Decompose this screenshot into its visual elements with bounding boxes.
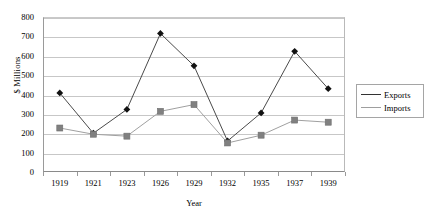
x-tick (244, 172, 245, 176)
y-axis-tick-labels: 0100200300400500600700800 (0, 17, 38, 172)
x-tick (144, 172, 145, 176)
data-point-square (57, 125, 63, 131)
x-axis-ticks (43, 172, 345, 176)
y-tick-label: 300 (0, 109, 38, 119)
x-tick-label: 1939 (308, 178, 348, 188)
data-point-square (225, 140, 231, 146)
x-tick (211, 172, 212, 176)
data-point-diamond (123, 106, 130, 113)
data-point-square (191, 102, 197, 108)
series-line (60, 105, 328, 143)
data-point-square (90, 131, 96, 137)
x-tick (110, 172, 111, 176)
x-axis-title: Year (43, 198, 345, 208)
series-layer (43, 17, 345, 172)
legend-item-imports[interactable]: Imports (359, 101, 421, 114)
y-tick-label: 700 (0, 31, 38, 41)
data-point-square (292, 117, 298, 123)
y-tick-label: 200 (0, 128, 38, 138)
legend-label-exports: Exports (381, 90, 410, 100)
legend-swatch-exports (361, 90, 381, 100)
data-point-square (157, 108, 163, 114)
data-point-square (258, 132, 264, 138)
x-tick (345, 172, 346, 176)
x-axis-tick-labels: 191919211923192619291932193519371939 (43, 178, 345, 192)
series-line (60, 33, 328, 141)
x-tick (43, 172, 44, 176)
series-imports (57, 102, 331, 146)
line-chart: $ Millions 0100200300400500600700800 191… (0, 0, 432, 224)
y-tick-label: 400 (0, 90, 38, 100)
x-tick (311, 172, 312, 176)
y-tick-label: 0 (0, 167, 38, 177)
y-tick-label: 500 (0, 70, 38, 80)
x-tick (77, 172, 78, 176)
data-point-square (325, 119, 331, 125)
legend-swatch-imports (361, 103, 381, 113)
data-point-square (124, 133, 130, 139)
y-tick-label: 600 (0, 51, 38, 61)
legend-item-exports[interactable]: Exports (359, 88, 421, 101)
y-tick-label: 100 (0, 148, 38, 158)
series-exports (56, 30, 331, 144)
x-tick (278, 172, 279, 176)
legend-label-imports: Imports (381, 103, 410, 113)
x-tick (177, 172, 178, 176)
chart-legend: Exports Imports (356, 84, 424, 118)
y-tick-label: 800 (0, 12, 38, 22)
